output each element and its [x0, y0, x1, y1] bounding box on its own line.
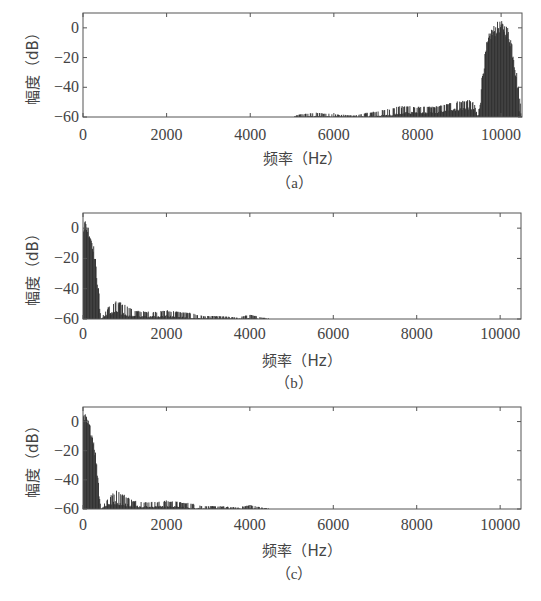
- panel-caption: （c）: [276, 566, 313, 582]
- x-tick-label: 0: [79, 516, 87, 533]
- spectrum-trace: [295, 21, 522, 117]
- x-tick-label: 8000: [401, 126, 433, 143]
- y-tick-label: −20: [54, 442, 79, 459]
- chart-b-svg: 02000400060008000100000−20−40−60频率（Hz）幅度…: [0, 200, 541, 400]
- x-tick-label: 6000: [317, 516, 349, 533]
- y-tick-label: −60: [54, 108, 79, 125]
- chart-panel-c: 02000400060008000100000−20−40−60频率（Hz）幅度…: [0, 394, 541, 601]
- y-tick-label: −60: [54, 310, 79, 327]
- y-axis-label: 幅度（dB）: [24, 418, 42, 498]
- plot-frame: [83, 13, 522, 117]
- chart-c-svg: 02000400060008000100000−20−40−60频率（Hz）幅度…: [0, 394, 541, 601]
- y-tick-label: −60: [54, 500, 79, 517]
- y-tick-label: 0: [71, 219, 79, 236]
- x-tick-label: 2000: [151, 126, 183, 143]
- y-tick-label: 0: [71, 413, 79, 430]
- x-tick-label: 4000: [234, 325, 266, 342]
- x-tick-label: 6000: [318, 126, 350, 143]
- plot-frame: [83, 213, 521, 319]
- spectrum-trace: [84, 414, 269, 509]
- chart-panel-a: 02000400060008000100000−20−40−60频率（Hz）幅度…: [0, 0, 541, 200]
- chart-panel-b: 02000400060008000100000−20−40−60频率（Hz）幅度…: [0, 200, 541, 400]
- x-tick-label: 4000: [234, 126, 266, 143]
- y-axis-label: 幅度（dB）: [24, 226, 42, 306]
- panel-caption: （a）: [276, 175, 313, 191]
- spectrum-trace: [84, 221, 269, 319]
- x-axis-label: 频率（Hz）: [262, 352, 341, 370]
- x-axis-label: 频率（Hz）: [262, 542, 341, 560]
- x-tick-label: 2000: [150, 516, 182, 533]
- x-tick-label: 10000: [481, 126, 521, 143]
- y-tick-label: −40: [54, 78, 79, 95]
- x-axis-label: 频率（Hz）: [263, 150, 342, 168]
- y-tick-label: −40: [54, 280, 79, 297]
- x-tick-label: 10000: [480, 516, 520, 533]
- x-tick-label: 2000: [150, 325, 182, 342]
- x-tick-label: 8000: [401, 516, 433, 533]
- plot-frame: [83, 407, 521, 509]
- y-tick-label: 0: [71, 19, 79, 36]
- y-tick-label: −20: [54, 49, 79, 66]
- y-axis-label: 幅度（dB）: [24, 25, 42, 105]
- y-tick-label: −20: [54, 249, 79, 266]
- x-tick-label: 4000: [234, 516, 266, 533]
- y-tick-label: −40: [54, 471, 79, 488]
- x-tick-label: 10000: [480, 325, 520, 342]
- chart-a-svg: 02000400060008000100000−20−40−60频率（Hz）幅度…: [0, 0, 541, 200]
- x-tick-label: 0: [79, 126, 87, 143]
- x-tick-label: 8000: [401, 325, 433, 342]
- panel-caption: （b）: [275, 375, 313, 391]
- x-tick-label: 6000: [317, 325, 349, 342]
- x-tick-label: 0: [79, 325, 87, 342]
